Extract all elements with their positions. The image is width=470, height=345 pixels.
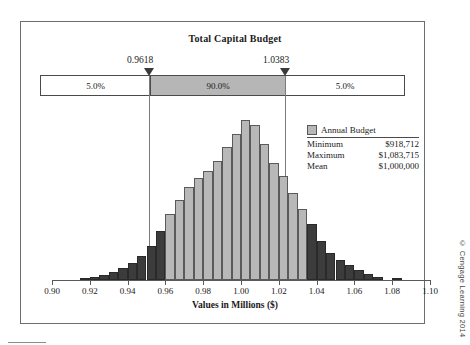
histogram-bar bbox=[250, 125, 259, 280]
histogram-bar bbox=[279, 176, 288, 280]
x-axis-tick-label: 1.04 bbox=[309, 286, 325, 296]
legend-stat-row: Mean$1,000,000 bbox=[307, 161, 419, 171]
legend-stat-value: $918,712 bbox=[385, 139, 419, 149]
x-axis-tick-label: 0.96 bbox=[158, 286, 174, 296]
x-axis-title: Values in Millions ($) bbox=[0, 300, 470, 310]
legend-stat-value: $1,083,715 bbox=[379, 150, 420, 160]
chart-page: Total Capital Budget 0.9618 1.0383 5.0% … bbox=[0, 0, 470, 345]
histogram-bar bbox=[194, 178, 203, 280]
lower-bound-label: 0.9618 bbox=[127, 55, 153, 65]
x-axis-tick-label: 1.10 bbox=[422, 286, 438, 296]
legend-stat-row: Maximum$1,083,715 bbox=[307, 150, 419, 160]
legend-stat-label: Mean bbox=[307, 161, 328, 171]
band-left-tail-percent: 5.0% bbox=[41, 76, 150, 95]
x-axis-tick bbox=[128, 280, 129, 285]
legend-stat-value: $1,000,000 bbox=[379, 161, 420, 171]
histogram-bar bbox=[298, 209, 307, 280]
histogram-bar bbox=[232, 134, 241, 280]
page-rule-divider bbox=[8, 342, 46, 343]
legend: Annual Budget Minimum$918,712Maximum$1,0… bbox=[307, 125, 419, 171]
histogram-bar bbox=[326, 253, 335, 280]
histogram-bar bbox=[269, 163, 278, 280]
x-axis-tick-label: 0.92 bbox=[82, 286, 98, 296]
x-axis-tick bbox=[430, 280, 431, 285]
histogram-bar bbox=[336, 260, 345, 280]
histogram-bar bbox=[203, 171, 212, 280]
x-axis-tick-label: 0.98 bbox=[195, 286, 211, 296]
x-axis-tick-label: 1.06 bbox=[347, 286, 363, 296]
x-axis-tick-label: 1.02 bbox=[271, 286, 287, 296]
x-axis-tick bbox=[203, 280, 204, 285]
chart-title: Total Capital Budget bbox=[0, 33, 470, 44]
x-axis-tick-label: 1.00 bbox=[233, 286, 249, 296]
x-axis-tick bbox=[165, 280, 166, 285]
x-axis-tick bbox=[392, 280, 393, 285]
histogram-bar bbox=[137, 256, 146, 280]
certainty-band[interactable]: 5.0% 90.0% 5.0% bbox=[40, 75, 405, 96]
histogram-bar bbox=[147, 246, 156, 280]
upper-bound-label: 1.0383 bbox=[263, 55, 289, 65]
legend-series-label: Annual Budget bbox=[321, 125, 376, 135]
legend-stat-label: Minimum bbox=[307, 139, 343, 149]
histogram-bar bbox=[222, 147, 231, 280]
histogram-bar bbox=[241, 120, 250, 280]
x-axis-tick bbox=[241, 280, 242, 285]
histogram-bar bbox=[109, 272, 118, 280]
band-center-percent: 90.0% bbox=[150, 76, 286, 95]
histogram-bar bbox=[307, 224, 316, 280]
histogram-bar bbox=[165, 214, 174, 280]
x-axis-tick-label: 1.08 bbox=[384, 286, 400, 296]
x-axis-tick-label: 0.94 bbox=[120, 286, 136, 296]
histogram-bar bbox=[288, 193, 297, 280]
histogram-bar bbox=[213, 161, 222, 280]
x-axis-tick bbox=[317, 280, 318, 285]
histogram-bar bbox=[156, 231, 165, 280]
x-axis-tick bbox=[354, 280, 355, 285]
histogram-bar bbox=[260, 144, 269, 280]
histogram-bar bbox=[345, 265, 354, 280]
legend-header: Annual Budget bbox=[307, 125, 419, 138]
x-axis-tick bbox=[279, 280, 280, 285]
histogram-bar bbox=[317, 241, 326, 280]
histogram-bar bbox=[128, 263, 137, 280]
histogram-bar bbox=[118, 268, 127, 280]
legend-statistics: Minimum$918,712Maximum$1,083,715Mean$1,0… bbox=[307, 139, 419, 171]
x-axis-tick bbox=[90, 280, 91, 285]
histogram-bar bbox=[354, 270, 363, 280]
copyright-notice: © Cengage Learning 2014 bbox=[458, 239, 467, 337]
x-axis-tick bbox=[52, 280, 53, 285]
legend-stat-label: Maximum bbox=[307, 150, 345, 160]
band-right-tail-percent: 5.0% bbox=[286, 76, 404, 95]
histogram-bar bbox=[175, 200, 184, 280]
x-axis-tick-label: 0.90 bbox=[44, 286, 60, 296]
histogram-bar bbox=[184, 187, 193, 280]
legend-swatch-icon bbox=[307, 125, 317, 135]
legend-stat-row: Minimum$918,712 bbox=[307, 139, 419, 149]
